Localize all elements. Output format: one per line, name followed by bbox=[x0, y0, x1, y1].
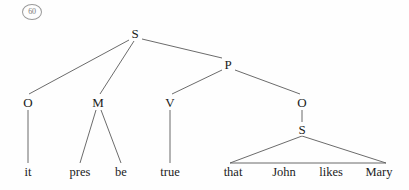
tree-terminal-t_pres: pres bbox=[70, 166, 91, 179]
tree-edge-S_root-to-P bbox=[142, 39, 222, 58]
tree-node-O_obj: O bbox=[295, 96, 308, 109]
tree-terminal-t_true: true bbox=[160, 166, 179, 179]
embedded-clause-triangle-shape bbox=[230, 136, 386, 163]
embedded-clause-triangle bbox=[230, 136, 386, 163]
tree-node-M: M bbox=[90, 96, 106, 109]
syntax-tree-figure: 60 SOMPVOS itpresbetruethatJohnlikesMary bbox=[0, 0, 409, 190]
tree-terminal-t_that: that bbox=[224, 166, 243, 179]
tree-edge-S_root-to-M bbox=[100, 41, 134, 94]
tree-edge-P-to-V bbox=[172, 70, 222, 94]
tree-edges-canvas bbox=[0, 0, 409, 190]
tree-terminal-t_likes: likes bbox=[319, 166, 343, 179]
tree-edge-M-to-t_be bbox=[101, 110, 121, 163]
tree-node-S_root: S bbox=[129, 27, 140, 40]
tree-edge-P-to-O_obj bbox=[235, 70, 300, 94]
tree-edge-M-to-t_pres bbox=[80, 110, 96, 163]
tree-node-S_embed: S bbox=[296, 123, 307, 136]
tree-terminal-t_Mary: Mary bbox=[365, 166, 392, 179]
tree-edge-S_root-to-O_subj bbox=[29, 40, 129, 94]
tree-terminal-t_be: be bbox=[115, 166, 127, 179]
tree-node-V: V bbox=[163, 96, 176, 109]
tree-terminal-t_it: it bbox=[25, 166, 32, 179]
tree-node-P: P bbox=[222, 58, 233, 71]
tree-terminal-t_John: John bbox=[272, 166, 296, 179]
tree-node-O_subj: O bbox=[21, 96, 34, 109]
